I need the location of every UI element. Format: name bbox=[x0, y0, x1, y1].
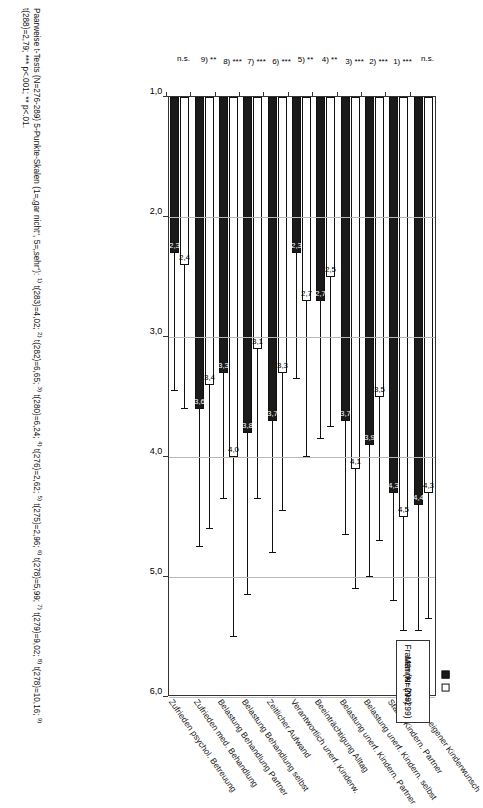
error-bar-cap bbox=[244, 594, 251, 595]
gridline bbox=[169, 577, 435, 578]
bar-frauen bbox=[365, 97, 374, 445]
axis-tick-label: 1,0 bbox=[150, 86, 163, 96]
bar-group-row: 2,3 bbox=[292, 97, 301, 697]
bar-value-label: 3,9 bbox=[364, 433, 375, 442]
bar-group-row: 2,7 bbox=[302, 97, 311, 697]
plot-area: 4,34,44,54,33,53,94,13,72,52,72,72,33,33… bbox=[168, 96, 436, 696]
bar-group-row: 2,4 bbox=[180, 97, 189, 697]
category-tick bbox=[263, 92, 264, 97]
error-bar-cap bbox=[269, 552, 276, 553]
significance-marker: 6) *** bbox=[272, 57, 291, 66]
bar-männer bbox=[229, 97, 238, 457]
error-bar bbox=[393, 493, 394, 601]
error-bar-cap bbox=[342, 534, 349, 535]
bar-group-row: 3,8 bbox=[243, 97, 252, 697]
legend-label-frauen: Frauen (N=299) bbox=[403, 645, 413, 705]
bar-frauen bbox=[292, 97, 301, 253]
axis-tick-label: 5,0 bbox=[150, 566, 163, 576]
axis-tick bbox=[163, 456, 168, 457]
error-bar-cap bbox=[196, 546, 203, 547]
bar-frauen bbox=[389, 97, 398, 493]
bar-group-row: 4,3 bbox=[389, 97, 398, 697]
error-bar bbox=[345, 421, 346, 535]
bar-group-row: 2,5 bbox=[326, 97, 335, 697]
bar-value-label: 4,5 bbox=[398, 505, 409, 514]
bar-group-row: 3,4 bbox=[205, 97, 214, 697]
error-bar bbox=[320, 301, 321, 439]
bar-männer bbox=[424, 97, 433, 493]
significance-marker: 5) ** bbox=[298, 55, 314, 64]
bar-group-row: 4,1 bbox=[351, 97, 360, 697]
bar-value-label: 2,3 bbox=[291, 241, 302, 250]
bar-value-label: 3,5 bbox=[374, 385, 385, 394]
significance-marker: 2) *** bbox=[369, 57, 388, 66]
error-bar bbox=[418, 505, 419, 631]
error-bar-cap bbox=[230, 636, 237, 637]
bar-group-row: 3,7 bbox=[268, 97, 277, 697]
error-bar-cap bbox=[181, 408, 188, 409]
category-tick bbox=[239, 92, 240, 97]
category-tick bbox=[312, 92, 313, 97]
error-bar bbox=[355, 469, 356, 589]
category-tick bbox=[385, 92, 386, 97]
category-tick bbox=[215, 92, 216, 97]
category-tick bbox=[288, 92, 289, 97]
bar-value-label: 4,1 bbox=[350, 457, 361, 466]
error-bar bbox=[403, 517, 404, 631]
bar-value-label: 3,6 bbox=[193, 397, 204, 406]
bar-value-label: 4,3 bbox=[423, 481, 434, 490]
axis-tick bbox=[163, 216, 168, 217]
error-bar bbox=[330, 277, 331, 427]
bar-value-label: 2,3 bbox=[169, 241, 180, 250]
bar-frauen bbox=[414, 97, 423, 505]
error-bar-cap bbox=[293, 378, 300, 379]
bars-layer: 4,34,44,54,33,53,94,13,72,52,72,72,33,33… bbox=[169, 97, 435, 695]
significance-marker: 1) *** bbox=[394, 57, 413, 66]
bar-value-label: 2,7 bbox=[315, 289, 326, 298]
axis-tick bbox=[163, 696, 168, 697]
error-bar bbox=[223, 373, 224, 499]
bar-männer bbox=[278, 97, 287, 373]
legend: Männer (N=299) Frauen (N=299) bbox=[396, 640, 430, 723]
bar-value-label: 3,7 bbox=[267, 409, 278, 418]
error-bar-cap bbox=[390, 600, 397, 601]
error-bar bbox=[233, 457, 234, 637]
bar-männer bbox=[399, 97, 408, 517]
bar-group-row: 4,3 bbox=[424, 97, 433, 697]
error-bar-cap bbox=[400, 630, 407, 631]
error-bar bbox=[257, 349, 258, 499]
bar-value-label: 3,1 bbox=[252, 337, 263, 346]
error-bar-cap bbox=[327, 426, 334, 427]
axis-tick-label: 4,0 bbox=[150, 446, 163, 456]
bar-group-row: 3,3 bbox=[278, 97, 287, 697]
legend-item-frauen: Frauen (N=299) bbox=[376, 669, 449, 682]
bar-group-row: 2,7 bbox=[316, 97, 325, 697]
category-label: Zeitlicher Aufwand bbox=[265, 697, 313, 760]
bar-value-label: 2,4 bbox=[179, 253, 190, 262]
bar-group-row: 3,1 bbox=[253, 97, 262, 697]
axis-tick-label: 3,0 bbox=[150, 326, 163, 336]
category-tick bbox=[361, 92, 362, 97]
bar-frauen bbox=[243, 97, 252, 433]
bar-männer bbox=[253, 97, 262, 349]
bar-value-label: 3,4 bbox=[203, 373, 214, 382]
category-tick bbox=[410, 92, 411, 97]
error-bar-cap bbox=[220, 498, 227, 499]
bar-frauen bbox=[170, 97, 179, 253]
axis-tick-label: 6,0 bbox=[150, 686, 163, 696]
gridline bbox=[169, 217, 435, 218]
bar-männer bbox=[351, 97, 360, 469]
significance-marker: 8) *** bbox=[223, 57, 242, 66]
footnote-text: Paarweise t-Tests (N=276-289) 5-Punkte-S… bbox=[20, 8, 46, 768]
significance-marker: 4) ** bbox=[322, 55, 338, 64]
significance-marker: 3) *** bbox=[345, 57, 364, 66]
axis-tick bbox=[163, 96, 168, 97]
bar-group-row: 4,0 bbox=[229, 97, 238, 697]
error-bar-cap bbox=[279, 510, 286, 511]
bar-value-label: 4,3 bbox=[388, 481, 399, 490]
bar-value-label: 4,4 bbox=[413, 493, 424, 502]
gridline bbox=[169, 457, 435, 458]
bar-frauen bbox=[316, 97, 325, 301]
